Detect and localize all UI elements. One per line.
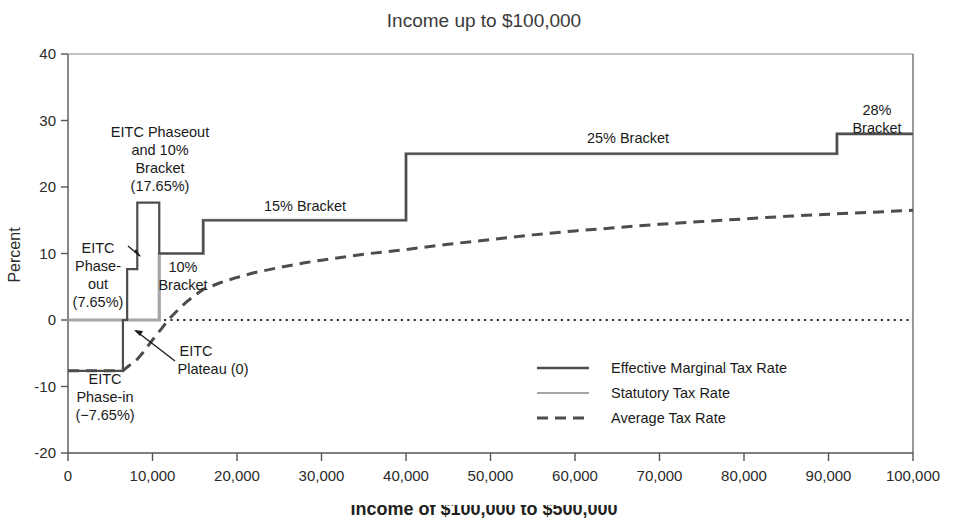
y-tick-label: -20 <box>34 444 56 461</box>
annotation-line: EITC <box>81 240 114 256</box>
next-chart-title-clipped: Income of $100,000 to $500,000 <box>0 505 968 521</box>
annotation-line: (7.65%) <box>73 294 124 310</box>
y-tick-label: 20 <box>39 178 56 195</box>
annotation-line: EITC <box>88 371 121 387</box>
tax-rate-chart: Income up to $100,000 Percent -20-100102… <box>0 0 968 521</box>
next-chart-title-text: Income of $100,000 to $500,000 <box>350 505 617 519</box>
annotation-line: 28% <box>862 102 891 118</box>
x-tick-label: 60,000 <box>552 467 598 484</box>
annotation-line: EITC <box>179 343 212 359</box>
legend-label: Statutory Tax Rate <box>611 385 730 401</box>
x-tick-label: 30,000 <box>299 467 345 484</box>
chart-title: Income up to $100,000 <box>387 10 581 31</box>
annotation-line: 10% <box>168 259 197 275</box>
chart-background <box>0 0 968 521</box>
y-tick-label: 0 <box>48 311 56 328</box>
annotation-bracket-25: 25% Bracket <box>587 130 669 146</box>
annotation-bracket-15: 15% Bracket <box>264 198 346 214</box>
x-tick-label: 20,000 <box>214 467 260 484</box>
x-tick-label: 10,000 <box>130 467 176 484</box>
x-tick-label: 50,000 <box>468 467 514 484</box>
x-tick-label: 90,000 <box>806 467 852 484</box>
annotation-line: and 10% <box>131 142 188 158</box>
y-tick-label: 10 <box>39 245 56 262</box>
annotation-line: (−7.65%) <box>75 407 134 423</box>
x-tick-label: 40,000 <box>383 467 429 484</box>
annotation-line: Bracket <box>852 120 901 136</box>
chart-page: Income up to $100,000 Percent -20-100102… <box>0 0 968 521</box>
annotation-line: EITC Phaseout <box>111 124 209 140</box>
annotation-line: Bracket <box>158 277 207 293</box>
x-tick-label: 70,000 <box>637 467 683 484</box>
x-tick-label: 100,000 <box>886 467 940 484</box>
y-tick-label: 40 <box>39 45 56 62</box>
annotation-line: out <box>88 276 108 292</box>
x-tick-label: 80,000 <box>721 467 767 484</box>
legend-label: Effective Marginal Tax Rate <box>611 360 787 376</box>
x-tick-label: 0 <box>64 467 72 484</box>
y-tick-label: -10 <box>34 378 56 395</box>
annotation-line: Plateau (0) <box>178 361 249 377</box>
annotation-line: Phase- <box>75 258 121 274</box>
y-tick-label: 30 <box>39 112 56 129</box>
legend-label: Average Tax Rate <box>611 410 726 426</box>
y-axis-label: Percent <box>6 227 23 283</box>
annotation-line: Bracket <box>135 160 184 176</box>
annotation-line: (17.65%) <box>131 178 190 194</box>
annotation-line: Phase-in <box>76 389 133 405</box>
